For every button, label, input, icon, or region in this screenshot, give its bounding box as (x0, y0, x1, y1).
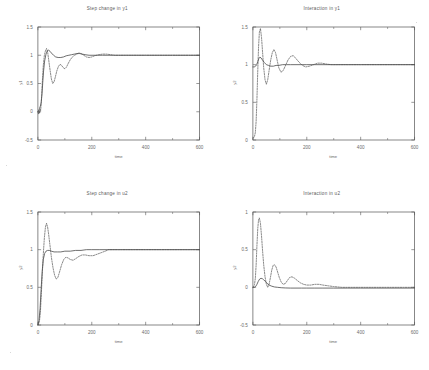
scan-speck (10, 352, 11, 353)
y-tick-label: 0 (245, 138, 248, 143)
x-tick-label: 400 (142, 330, 150, 335)
series-dashed (252, 29, 414, 139)
plot-canvas: 020040060000.511.5 (215, 0, 429, 185)
plot-frame (252, 27, 414, 140)
panel-interaction-y1: Interaction in y1 y2 time 020040060000.5… (215, 0, 429, 185)
x-tick-label: 0 (37, 145, 40, 150)
y-tick-label: 0.5 (27, 81, 34, 86)
series-solid (252, 57, 414, 67)
y-tick-label: 1 (30, 53, 33, 58)
series-dashed (252, 218, 414, 287)
plot-frame (38, 27, 200, 140)
y-tick-label: 0 (30, 109, 33, 114)
y-tick-label: 1 (245, 62, 248, 67)
x-tick-label: 600 (410, 145, 418, 150)
x-tick-label: 400 (142, 145, 150, 150)
x-tick-label: 200 (88, 145, 96, 150)
x-tick-label: 600 (196, 145, 204, 150)
series-dashed (38, 223, 200, 325)
y-tick-label: 0 (30, 323, 33, 328)
plot-canvas: 0200400600-0.500.511.5 (0, 0, 215, 185)
x-tick-label: 0 (37, 330, 40, 335)
series-dashed (38, 48, 200, 114)
plot-canvas: 0200400600-0.500.51 (215, 185, 429, 370)
y-tick-label: 0 (245, 285, 248, 290)
y-tick-label: 0.5 (241, 247, 248, 252)
y-tick-label: -0.5 (240, 323, 248, 328)
y-tick-label: 1 (30, 247, 33, 252)
series-solid (38, 50, 200, 112)
panel-step-change-y1: Step change in y1 y1 time 0200400600-0.5… (0, 0, 215, 185)
figure-grid: Step change in y1 y1 time 0200400600-0.5… (0, 0, 429, 370)
x-tick-label: 400 (356, 330, 364, 335)
x-tick-label: 200 (88, 330, 96, 335)
y-tick-label: 0.5 (241, 100, 248, 105)
y-tick-label: 1.5 (27, 25, 34, 30)
y-tick-label: 1.5 (241, 25, 248, 30)
panel-interaction-u2: Interaction in u2 y2 time 0200400600-0.5… (215, 185, 429, 370)
panel-step-change-u2: Step change in u2 y2 time 020040060000.5… (0, 185, 215, 370)
x-tick-label: 600 (410, 330, 418, 335)
x-tick-label: 200 (302, 330, 310, 335)
x-tick-label: 200 (302, 145, 310, 150)
x-tick-label: 0 (251, 330, 254, 335)
series-solid (38, 250, 200, 325)
y-tick-label: 1 (245, 210, 248, 215)
x-tick-label: 0 (251, 145, 254, 150)
x-tick-label: 600 (196, 330, 204, 335)
x-tick-label: 400 (356, 145, 364, 150)
y-tick-label: -0.5 (25, 138, 33, 143)
plot-frame (38, 212, 200, 325)
scan-speck (416, 22, 417, 23)
plot-frame (252, 212, 414, 325)
plot-canvas: 020040060000.511.5 (0, 185, 215, 370)
y-tick-label: 1.5 (27, 210, 34, 215)
scan-speck (6, 165, 7, 166)
y-tick-label: 0.5 (27, 285, 34, 290)
